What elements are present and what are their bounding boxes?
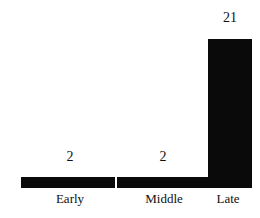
category-label-middle: Middle xyxy=(130,191,198,206)
value-label-late: 21 xyxy=(200,11,260,25)
bar-early[interactable] xyxy=(21,177,115,188)
category-label-late: Late xyxy=(203,191,253,206)
bar-middle[interactable] xyxy=(117,177,208,188)
value-label-middle: 2 xyxy=(133,150,193,164)
value-label-early: 2 xyxy=(40,150,100,164)
bar-chart: 2 2 21 Early Middle Late xyxy=(0,0,260,218)
bar-late[interactable] xyxy=(208,39,252,188)
category-label-early: Early xyxy=(38,191,102,206)
bar-slot-late xyxy=(208,14,252,188)
